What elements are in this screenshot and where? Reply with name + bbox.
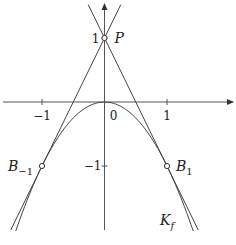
x-tick-label-1: 1 <box>163 109 171 123</box>
b-1-main: B <box>175 158 186 174</box>
diagram: −1 1 1 −1 0 P B−1 B1 Kf <box>0 0 236 245</box>
point-marker-p <box>102 35 107 40</box>
curve-label-kf: Kf <box>159 212 176 231</box>
kf-subscript: f <box>169 220 176 231</box>
y-tick-label-1: 1 <box>92 32 100 46</box>
point-label-b-minus-1: B−1 <box>7 158 33 177</box>
y-tick-label-minus-1: −1 <box>84 159 102 173</box>
x-tick-label-minus-1: −1 <box>33 109 51 123</box>
point-marker-b--1 <box>39 163 44 168</box>
point-label-b-1: B1 <box>175 158 193 177</box>
b-minus-1-subscript: −1 <box>18 166 33 177</box>
point-marker-b-1 <box>164 163 169 168</box>
b-1-subscript: 1 <box>186 166 192 177</box>
point-label-p: P <box>114 30 125 46</box>
b-minus-1-main: B <box>7 158 18 174</box>
origin-label: 0 <box>110 109 118 123</box>
